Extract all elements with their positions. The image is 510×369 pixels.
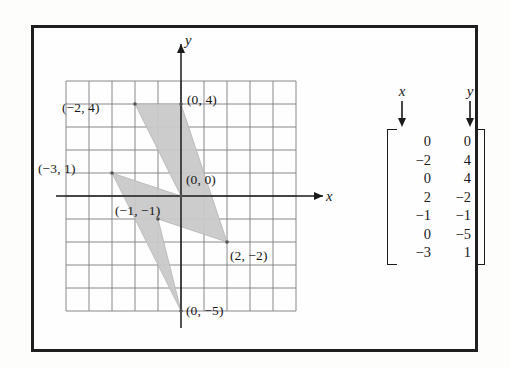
matrix-bracket-left	[387, 129, 397, 265]
matrix-cell: −2	[396, 151, 436, 170]
table-row: −2 4	[396, 151, 476, 170]
matrix-bracket-right	[475, 129, 485, 265]
matrix-cell: −1	[396, 206, 436, 225]
table-row: 0 −5	[396, 225, 476, 244]
x-axis-arrowhead	[314, 192, 323, 200]
vertex-dot	[133, 102, 137, 106]
matrix-cell: 0	[436, 132, 476, 151]
point-label-0-4: (0, 4)	[187, 92, 217, 108]
point-label-0-0: (0, 0)	[186, 172, 216, 188]
table-row: 2 −2	[396, 188, 476, 207]
matrix-cell: 4	[436, 151, 476, 170]
point-label-0-neg5: (0, −5)	[186, 303, 224, 319]
point-label-neg2-4: (−2, 4)	[62, 100, 100, 116]
matrix-cell: −1	[436, 206, 476, 225]
matrix-header-x: x	[388, 83, 416, 100]
matrix-cell: 0	[396, 132, 436, 151]
table-row: −3 1	[396, 243, 476, 262]
point-label-neg1-neg1: (−1, −1)	[115, 203, 160, 219]
vertex-dot	[179, 194, 183, 198]
vertex-dot	[225, 240, 229, 244]
table-row: −1 −1	[396, 206, 476, 225]
x-axis-label: x	[326, 188, 332, 205]
y-axis-label: y	[185, 32, 191, 49]
matrix-column-headers: x y	[371, 83, 501, 100]
point-label-neg3-1: (−3, 1)	[38, 161, 76, 177]
matrix-cell: 4	[436, 169, 476, 188]
matrix-cell: 1	[436, 243, 476, 262]
table-row: 0 0	[396, 132, 476, 151]
vertex-dot	[110, 171, 114, 175]
matrix-cell: 2	[396, 188, 436, 207]
matrix-cell: 0	[396, 169, 436, 188]
table-row: 0 4	[396, 169, 476, 188]
matrix-cell: −5	[436, 225, 476, 244]
data-matrix: x y	[371, 83, 501, 265]
matrix-column-arrows	[371, 101, 501, 127]
down-arrow-icon	[388, 101, 416, 127]
matrix-header-y: y	[456, 83, 484, 100]
matrix-cell: −2	[436, 188, 476, 207]
figure-frame: x y (0, 4) (−2, 4) (−3, 1) (0, 0) (−1, −…	[31, 25, 478, 352]
point-label-2-neg2: (2, −2)	[230, 248, 268, 264]
plot-svg	[34, 28, 334, 328]
coordinate-plot: x y (0, 4) (−2, 4) (−3, 1) (0, 0) (−1, −…	[34, 28, 334, 328]
matrix-table: 0 0 −2 4 0 4 2 −2	[396, 132, 476, 262]
matrix-cell: 0	[396, 225, 436, 244]
y-axis-arrowhead	[177, 44, 185, 53]
vertex-dot	[179, 309, 183, 313]
matrix-cell: −3	[396, 243, 436, 262]
down-arrow-icon	[456, 101, 484, 127]
vertex-dot	[179, 102, 183, 106]
